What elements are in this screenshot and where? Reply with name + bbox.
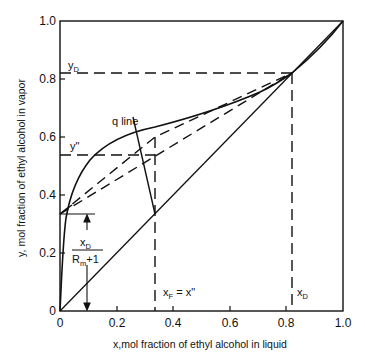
y-tick-labels: 0 0.2 0.4 0.6 0.8 1.0: [39, 14, 56, 318]
arrow-down-icon: [84, 303, 90, 310]
y-tick-0.2: 0.2: [39, 246, 56, 260]
intercept-fraction-annotation: xD Rm+1: [72, 236, 103, 268]
yD-annotation: yD: [68, 59, 80, 74]
q-line-annotation: q line: [112, 115, 138, 127]
q-line: [133, 117, 155, 214]
operating-line-start: [60, 205, 72, 214]
x-tick-1.0: 1.0: [335, 316, 352, 330]
y-double-prime-annotation: y": [70, 140, 80, 152]
y-tick-0.8: 0.8: [39, 72, 56, 86]
y-tick-0.4: 0.4: [39, 188, 56, 202]
diagonal-line: [60, 21, 343, 311]
xF-annotation: xF = x": [163, 286, 195, 301]
x-tick-0.4: 0.4: [165, 316, 182, 330]
xD-annotation: xD: [297, 286, 309, 301]
x-tick-0.6: 0.6: [222, 316, 239, 330]
mccabe-thiele-chart: 0 0.2 0.4 0.6 0.8 1.0 0 0.2 0.4 0.6 0.8 …: [0, 0, 365, 359]
y-tick-1.0: 1.0: [39, 14, 56, 28]
y-tick-0: 0: [49, 304, 56, 318]
x-tick-labels: 0 0.2 0.4 0.6 0.8 1.0: [57, 316, 352, 330]
arrow-up-icon: [84, 215, 90, 222]
svg-text:Rm+1: Rm+1: [72, 253, 99, 268]
x-tick-0.2: 0.2: [109, 316, 126, 330]
y-tick-0.6: 0.6: [39, 130, 56, 144]
svg-text:xD: xD: [80, 236, 92, 251]
x-tick-0.8: 0.8: [278, 316, 295, 330]
y-axis-label: y, mol fraction of ethyl alcohol in vapo…: [15, 79, 27, 257]
x-axis-label: x,mol fraction of ethyl alcohol in liqui…: [113, 338, 287, 350]
x-tick-0: 0: [57, 316, 64, 330]
